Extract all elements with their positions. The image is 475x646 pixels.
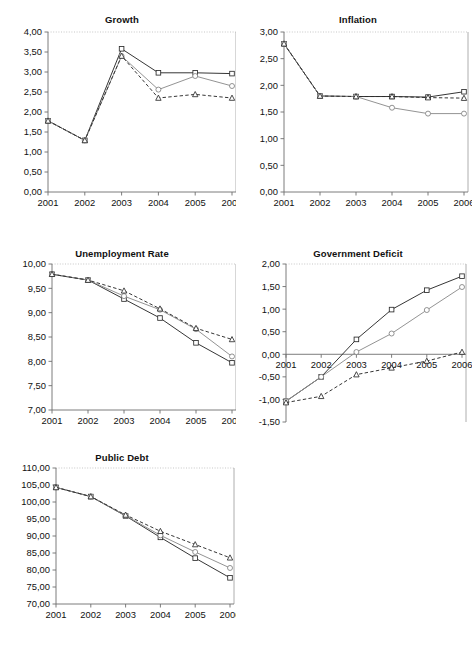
y-axis-tick-label: 1,00 (24, 146, 42, 157)
data-point-marker-circle (460, 285, 465, 290)
series-line-square (284, 44, 464, 97)
data-point-marker-circle (462, 111, 467, 116)
series-line-circle (48, 56, 232, 140)
x-axis-tick-label: 2002 (80, 609, 101, 620)
data-point-marker-square (158, 316, 163, 321)
data-point-marker-square (194, 341, 199, 346)
plot-area-growth: 0,000,501,001,502,002,503,003,504,002001… (8, 14, 236, 226)
x-axis-tick-label: 2006 (222, 415, 236, 426)
y-axis-tick-label: 110,00 (22, 462, 50, 473)
y-axis-tick-label: 2,50 (260, 53, 278, 64)
data-point-marker-triangle (354, 372, 359, 377)
y-axis-tick-label: 100,00 (21, 496, 50, 507)
charts-sheet: Growth 0,000,501,001,502,002,503,003,504… (0, 0, 475, 646)
series-circle (46, 54, 235, 143)
series-line-triangle (52, 274, 232, 339)
y-axis-tick-label: 1,00 (260, 133, 278, 144)
data-point-marker-circle (319, 374, 324, 379)
y-axis-tick-label: 1,50 (260, 106, 278, 117)
y-axis-tick-label: -0,50 (259, 371, 280, 382)
y-axis-tick-label: -1,00 (259, 394, 280, 405)
y-axis-tick-label: 2,00 (24, 106, 42, 117)
x-axis-tick-label: 2003 (115, 609, 136, 620)
x-axis-tick-label: 2004 (150, 609, 171, 620)
x-axis-tick-label: 2001 (46, 609, 67, 620)
x-axis-tick-label: 2004 (148, 197, 169, 208)
data-point-marker-square (425, 288, 430, 293)
plot-area-unemployment: 7,007,508,008,509,009,5010,0020012002200… (8, 248, 236, 448)
y-axis-tick-label: 85,00 (27, 547, 50, 558)
series-line-circle (284, 44, 464, 114)
x-axis-tick-label: 2006 (452, 359, 472, 370)
y-axis-tick-label: 9,00 (28, 307, 46, 318)
series-circle (50, 272, 235, 359)
data-point-marker-triangle (229, 95, 234, 100)
y-axis-tick-label: 1,50 (262, 281, 280, 292)
x-axis-tick-label: 2001 (42, 415, 63, 426)
x-axis-tick-label: 2003 (346, 359, 367, 370)
series-square (50, 272, 235, 365)
data-point-marker-circle (122, 294, 127, 299)
x-axis-tick-label: 2005 (186, 415, 207, 426)
chart-panel-unemployment: Unemployment Rate 7,007,508,008,509,009,… (8, 248, 236, 448)
x-axis-tick-label: 2002 (310, 197, 331, 208)
x-axis-tick-label: 2006 (454, 197, 472, 208)
series-circle (284, 285, 465, 404)
x-axis-tick-label: 2004 (150, 415, 171, 426)
x-axis-tick-label: 2003 (111, 197, 132, 208)
data-point-marker-circle (389, 331, 394, 336)
x-axis-tick-label: 2003 (114, 415, 135, 426)
y-axis-tick-label: 3,00 (260, 26, 278, 37)
data-point-marker-circle (390, 105, 395, 110)
x-axis-tick-label: 2005 (185, 609, 206, 620)
data-point-marker-square (460, 274, 465, 279)
data-point-marker-circle (354, 350, 359, 355)
y-axis-tick-label: 0,50 (262, 326, 280, 337)
data-point-marker-square (193, 556, 198, 561)
x-axis-tick-label: 2001 (274, 197, 295, 208)
data-point-marker-square (156, 71, 161, 76)
data-point-marker-circle (230, 354, 235, 359)
y-axis-tick-label: 4,00 (24, 26, 42, 37)
y-axis-tick-label: 0,50 (24, 166, 42, 177)
chart-panel-debt: Public Debt 70,0075,0080,0085,0090,0095,… (8, 452, 236, 642)
series-line-circle (52, 274, 232, 356)
series-square (282, 41, 467, 99)
chart-panel-deficit: Government Deficit -1,50-1,00-0,500,000,… (244, 248, 472, 448)
y-axis-tick-label: 70,00 (27, 598, 50, 609)
data-point-marker-triangle (158, 528, 163, 533)
data-point-marker-circle (424, 308, 429, 313)
y-axis-tick-label: 8,00 (28, 356, 46, 367)
series-line-square (52, 274, 232, 363)
y-axis-tick-label: 7,50 (28, 380, 46, 391)
y-axis-tick-label: 10,00 (23, 258, 46, 269)
series-triangle (283, 349, 464, 405)
series-triangle (45, 53, 234, 143)
data-point-marker-square (230, 71, 235, 76)
data-point-marker-circle (230, 84, 235, 89)
x-axis-tick-label: 2005 (418, 197, 439, 208)
series-square (46, 47, 235, 143)
y-axis-tick-label: 80,00 (27, 564, 50, 575)
y-axis-tick-label: -1,50 (259, 416, 280, 427)
y-axis-tick-label: 0,50 (260, 160, 278, 171)
page-header-artifact (0, 0, 475, 14)
y-axis-tick-label: 9,50 (28, 283, 46, 294)
x-axis-tick-label: 2001 (38, 197, 59, 208)
y-axis-tick-label: 3,50 (24, 46, 42, 57)
y-axis-tick-label: 2,00 (260, 80, 278, 91)
x-axis-tick-label: 2005 (185, 197, 206, 208)
series-line-triangle (48, 56, 232, 140)
y-axis-tick-label: 0,00 (260, 186, 278, 197)
data-point-marker-circle (193, 549, 198, 554)
data-point-marker-square (354, 337, 359, 342)
data-point-marker-triangle (121, 288, 126, 293)
series-line-triangle (284, 44, 464, 98)
series-triangle (49, 271, 234, 341)
data-point-marker-circle (426, 111, 431, 116)
series-line-triangle (56, 487, 230, 557)
series-line-circle (286, 287, 462, 401)
x-axis-tick-label: 2004 (382, 197, 403, 208)
y-axis-tick-label: 90,00 (27, 530, 50, 541)
series-circle (282, 41, 467, 116)
